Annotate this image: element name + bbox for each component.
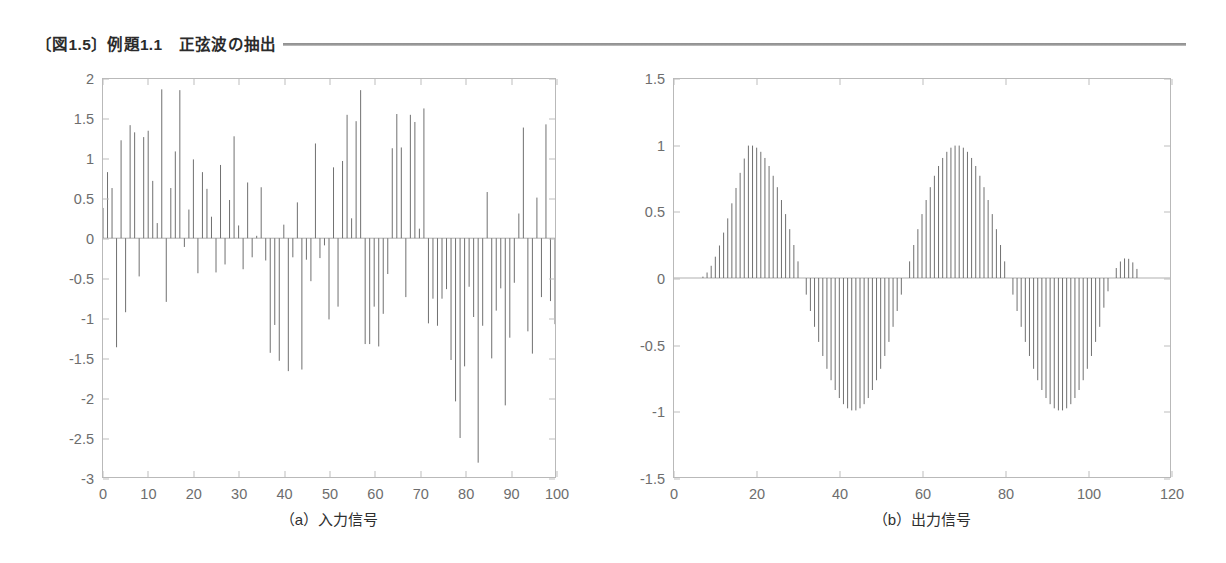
x-axis-tick-label: 50 (322, 486, 338, 502)
y-axis-tick-mark (549, 239, 555, 240)
x-axis-tick-mark (674, 471, 675, 477)
x-axis-tick-label: 100 (1077, 486, 1101, 502)
y-axis-tick-label: 1.5 (74, 111, 94, 127)
y-axis-tick-label: 0 (86, 231, 94, 247)
x-axis-tick-label: 70 (413, 486, 429, 502)
x-axis-tick-mark (330, 79, 331, 85)
x-axis-tick-mark (1089, 471, 1090, 477)
y-axis-tick-mark (1164, 212, 1170, 213)
x-axis-tick-mark (840, 79, 841, 85)
x-axis-tick-mark (375, 471, 376, 477)
caption-output-signal: （b）出力信号 (673, 508, 1171, 529)
y-axis-tick-label: 1 (657, 138, 665, 154)
y-axis-tick-label: 0 (657, 271, 665, 287)
y-axis-tick-label: -0.5 (640, 338, 665, 354)
x-axis-tick-mark (330, 471, 331, 477)
x-axis-tick-mark (420, 471, 421, 477)
x-axis-tick-mark (557, 471, 558, 477)
plot-frame-output-signal: 1.510.50-0.5-1-1.5020406080100120 (673, 78, 1171, 478)
y-axis-tick-mark (674, 479, 680, 480)
y-axis-tick-mark (103, 359, 109, 360)
y-axis-tick-label: -2.5 (69, 431, 94, 447)
x-axis-tick-label: 10 (140, 486, 156, 502)
x-axis-tick-label: 40 (832, 486, 848, 502)
y-axis-tick-mark (549, 199, 555, 200)
y-axis-tick-mark (103, 199, 109, 200)
y-axis-tick-mark (1164, 145, 1170, 146)
y-axis-tick-mark (549, 279, 555, 280)
x-axis-tick-label: 60 (915, 486, 931, 502)
x-axis-tick-label: 20 (749, 486, 765, 502)
y-axis-tick-label: 0.5 (645, 204, 665, 220)
x-axis-tick-label: 0 (99, 486, 107, 502)
x-axis-tick-mark (148, 79, 149, 85)
x-axis-tick-label: 20 (186, 486, 202, 502)
y-axis-tick-label: -1 (81, 311, 94, 327)
y-axis-tick-mark (674, 212, 680, 213)
y-axis-tick-label: -1.5 (69, 351, 94, 367)
y-axis-tick-mark (103, 159, 109, 160)
chart-panel-output-signal: 1.510.50-0.5-1-1.5020406080100120 (673, 78, 1171, 478)
y-axis-tick-mark (674, 145, 680, 146)
y-axis-tick-mark (103, 119, 109, 120)
y-axis-tick-label: -3 (81, 471, 94, 487)
x-axis-tick-mark (1089, 79, 1090, 85)
stem-plot-output-signal (674, 79, 1170, 477)
y-axis-tick-label: 2 (86, 71, 94, 87)
figure-header: 〔図1.5〕例題1.1 正弦波の抽出 (36, 30, 1186, 56)
x-axis-tick-mark (103, 471, 104, 477)
x-axis-tick-label: 30 (231, 486, 247, 502)
y-axis-tick-mark (103, 479, 109, 480)
y-axis-tick-mark (549, 119, 555, 120)
stem-plot-input-signal (103, 79, 555, 477)
y-axis-tick-mark (1164, 279, 1170, 280)
x-axis-tick-label: 60 (367, 486, 383, 502)
x-axis-tick-mark (466, 471, 467, 477)
x-axis-tick-label: 120 (1160, 486, 1184, 502)
y-axis-tick-mark (549, 439, 555, 440)
x-axis-tick-label: 40 (277, 486, 293, 502)
x-axis-tick-mark (557, 79, 558, 85)
x-axis-tick-mark (1006, 79, 1007, 85)
x-axis-tick-mark (1172, 79, 1173, 85)
x-axis-tick-mark (193, 79, 194, 85)
x-axis-tick-mark (923, 79, 924, 85)
x-axis-tick-mark (511, 79, 512, 85)
y-axis-tick-mark (674, 279, 680, 280)
x-axis-tick-label: 80 (458, 486, 474, 502)
x-axis-tick-mark (375, 79, 376, 85)
y-axis-tick-mark (103, 439, 109, 440)
x-axis-tick-mark (511, 471, 512, 477)
plot-frame-input-signal: 21.510.50-0.5-1-1.5-2-2.5-30102030405060… (102, 78, 556, 478)
stem-plot-output-svg (674, 79, 1170, 477)
y-axis-tick-mark (1164, 345, 1170, 346)
x-axis-tick-mark (239, 79, 240, 85)
y-axis-tick-label: 0.5 (74, 191, 94, 207)
x-axis-tick-label: 90 (504, 486, 520, 502)
x-axis-tick-mark (420, 79, 421, 85)
y-axis-tick-mark (674, 345, 680, 346)
x-axis-tick-mark (148, 471, 149, 477)
y-axis-tick-mark (1164, 479, 1170, 480)
y-axis-tick-mark (549, 319, 555, 320)
y-axis-tick-mark (1164, 412, 1170, 413)
y-axis-tick-mark (103, 79, 109, 80)
x-axis-tick-mark (284, 471, 285, 477)
y-axis-tick-mark (549, 399, 555, 400)
x-axis-tick-mark (757, 79, 758, 85)
x-axis-tick-mark (103, 79, 104, 85)
y-axis-tick-mark (103, 319, 109, 320)
x-axis-tick-mark (239, 471, 240, 477)
caption-input-signal: （a）入力信号 (102, 508, 556, 529)
stem-plot-input-svg (103, 79, 555, 477)
y-axis-tick-label: -1.5 (640, 471, 665, 487)
y-axis-tick-mark (674, 412, 680, 413)
y-axis-tick-label: 1 (86, 151, 94, 167)
x-axis-tick-mark (674, 79, 675, 85)
y-axis-tick-mark (1164, 79, 1170, 80)
y-axis-tick-label: 1.5 (645, 71, 665, 87)
x-axis-tick-label: 80 (998, 486, 1014, 502)
y-axis-tick-label: -2 (81, 391, 94, 407)
y-axis-tick-mark (549, 79, 555, 80)
x-axis-tick-mark (923, 471, 924, 477)
